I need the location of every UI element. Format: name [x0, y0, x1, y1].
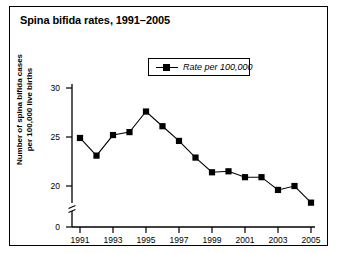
x-tick-label-1997: 1997	[165, 235, 193, 245]
data-point-1991	[77, 135, 83, 141]
data-point-1996	[159, 123, 165, 129]
x-tick-label-2005: 2005	[297, 235, 325, 245]
y-tick-label-25: 25	[42, 132, 60, 142]
legend-box: Rate per 100,000	[148, 58, 250, 76]
data-series-markers	[77, 108, 314, 205]
data-point-2000	[225, 168, 231, 174]
plot-svg	[0, 0, 341, 253]
data-point-2004	[291, 183, 297, 189]
data-point-2002	[258, 174, 264, 180]
data-point-1998	[192, 154, 198, 160]
legend-square-icon	[163, 64, 170, 71]
y-axis-title-line2: per 100,000 live births	[24, 45, 34, 175]
x-tick-label-1995: 1995	[132, 235, 160, 245]
x-tick-label-1991: 1991	[66, 235, 94, 245]
x-tick-label-1999: 1999	[198, 235, 226, 245]
data-point-1997	[176, 138, 182, 144]
x-tick-label-2003: 2003	[264, 235, 292, 245]
plot-area	[0, 0, 341, 253]
legend-label: Rate per 100,000	[183, 62, 253, 72]
data-point-2005	[308, 200, 314, 206]
y-axis-ticks	[66, 88, 72, 227]
data-point-1999	[209, 169, 215, 175]
chart-figure: Spina bifida rates, 1991–2005	[0, 0, 341, 253]
y-tick-label-20: 20	[42, 181, 60, 191]
y-tick-label-0: 0	[42, 222, 60, 232]
x-tick-label-1993: 1993	[99, 235, 127, 245]
y-tick-label-30: 30	[42, 83, 60, 93]
data-point-1992	[93, 153, 99, 159]
axis-lines	[69, 84, 316, 227]
data-point-1993	[110, 132, 116, 138]
data-point-1995	[143, 108, 149, 114]
y-axis-title: Number of spina bifida cases per 100,000…	[15, 45, 34, 175]
y-axis-title-line1: Number of spina bifida cases	[15, 45, 25, 175]
data-point-2003	[275, 187, 281, 193]
y-axis-break-mark-upper	[69, 206, 76, 209]
data-point-2001	[242, 174, 248, 180]
data-point-1994	[126, 129, 132, 135]
x-axis-ticks	[80, 227, 311, 233]
x-tick-label-2001: 2001	[231, 235, 259, 245]
